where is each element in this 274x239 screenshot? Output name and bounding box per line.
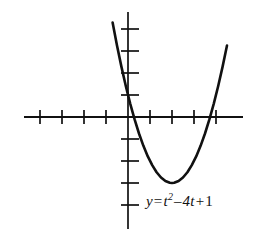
plot-canvas: [0, 0, 274, 239]
equation-constant: 1: [205, 193, 213, 209]
y-axis-group: [121, 12, 139, 229]
parabola-curve: [113, 23, 227, 183]
equation-minus-sign: –: [173, 193, 183, 209]
equation-equals: =: [153, 193, 164, 209]
equation-plus-sign: +: [195, 193, 206, 209]
quadratic-graph-figure: y=t2–4t+1: [0, 0, 274, 239]
equation-linear-term: 4t: [183, 193, 195, 209]
equation-annotation: y=t2–4t+1: [146, 191, 213, 210]
equation-lhs: y: [146, 193, 153, 209]
